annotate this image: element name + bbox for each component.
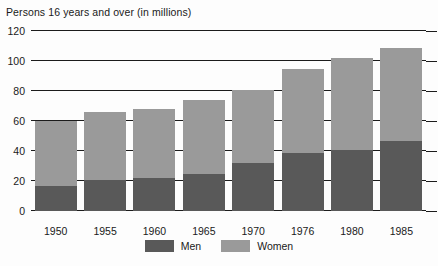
bar-group	[380, 48, 422, 212]
bar-group	[282, 69, 324, 212]
y-tick-label: 20	[13, 175, 25, 187]
bar-segment-men	[232, 163, 274, 211]
legend-label: Men	[181, 240, 201, 252]
x-tick-label: 1960	[133, 225, 175, 237]
x-axis-labels: 19501955196019651970197619801985	[31, 211, 426, 241]
x-tick-label: 1970	[232, 225, 274, 237]
bar-segment-women	[35, 121, 77, 186]
bar-segment-women	[183, 100, 225, 174]
chart-legend: MenWomen	[0, 240, 438, 252]
y-tick-mark	[426, 151, 437, 152]
y-tick-mark	[426, 121, 437, 122]
y-tick-mark	[426, 61, 437, 62]
bar-segment-men	[282, 153, 324, 212]
x-tick-label: 1950	[35, 225, 77, 237]
bar-segment-women	[380, 48, 422, 141]
x-tick-label: 1976	[282, 225, 324, 237]
bar-group	[35, 121, 77, 211]
bar-group	[133, 109, 175, 211]
bar-segment-men	[133, 178, 175, 211]
y-tick-label: 80	[13, 85, 25, 97]
y-tick-mark	[426, 181, 437, 182]
x-tick-label: 1985	[380, 225, 422, 237]
bar-group	[232, 90, 274, 212]
x-tick-label: 1955	[84, 225, 126, 237]
bar-group	[331, 58, 373, 211]
bar-segment-men	[331, 150, 373, 212]
y-tick-mark	[426, 91, 437, 92]
legend-item: Women	[221, 240, 293, 252]
x-tick-label: 1965	[183, 225, 225, 237]
chart-title: Persons 16 years and over (in millions)	[6, 6, 191, 18]
y-tick-label: 100	[7, 55, 25, 67]
bar-segment-men	[35, 186, 77, 212]
bar-group	[183, 100, 225, 211]
y-tick-mark	[426, 211, 437, 212]
y-tick-label: 120	[7, 25, 25, 37]
bar-segment-women	[84, 112, 126, 180]
legend-item: Men	[145, 240, 201, 252]
bar-segment-women	[232, 90, 274, 164]
bar-segment-women	[331, 58, 373, 150]
y-tick-label: 40	[13, 145, 25, 157]
legend-swatch-women	[221, 240, 250, 252]
stacked-bar-chart: Persons 16 years and over (in millions) …	[0, 0, 438, 266]
bars-layer	[31, 31, 426, 211]
legend-swatch-men	[145, 240, 174, 252]
y-tick-mark	[426, 31, 437, 32]
bar-segment-women	[282, 69, 324, 153]
y-tick-label: 0	[19, 205, 25, 217]
plot-area: 020406080100120	[31, 31, 426, 211]
legend-label: Women	[257, 240, 293, 252]
x-tick-label: 1980	[331, 225, 373, 237]
bar-segment-men	[380, 141, 422, 212]
bar-group	[84, 112, 126, 211]
y-tick-label: 60	[13, 115, 25, 127]
bar-segment-men	[84, 180, 126, 212]
bar-segment-men	[183, 174, 225, 212]
bar-segment-women	[133, 109, 175, 178]
